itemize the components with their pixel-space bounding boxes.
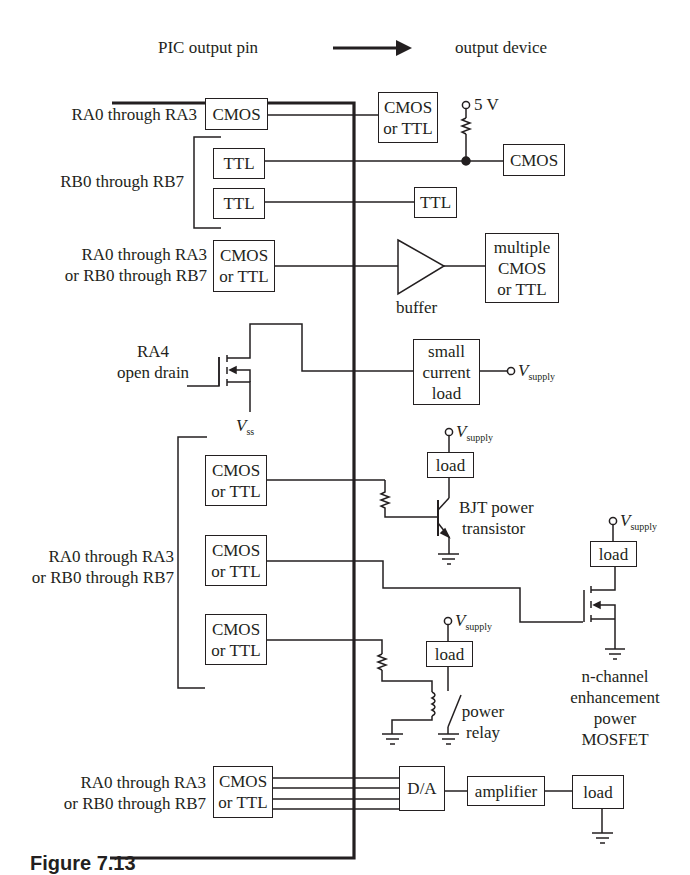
box-line: CMOS (212, 619, 260, 640)
label-line: or RB0 through RB7 (32, 567, 174, 588)
vsupply-label-bjt: Vsupply (456, 421, 493, 448)
box-line: multiple (494, 237, 551, 258)
vsupply-symbol: V (455, 611, 465, 630)
amplifier-box: amplifier (467, 776, 545, 806)
vsupply-symbol: V (620, 511, 630, 530)
relay-load-box: load (426, 641, 473, 667)
box-line: or TTL (219, 266, 268, 287)
label-line: MOSFET (560, 729, 670, 750)
label-line: enhancement (560, 687, 670, 708)
vsupply-symbol: V (456, 422, 466, 441)
ttl-driver-label: TTL (223, 153, 254, 174)
vss-label: Vss (236, 415, 254, 442)
box-line: small (428, 341, 465, 362)
output-device-label: output device (455, 37, 547, 58)
box-line: load (583, 782, 612, 803)
cmos-output-box: CMOS (503, 144, 565, 176)
label-line: or RB0 through RB7 (64, 793, 206, 814)
pullup-voltage-label: 5 V (474, 94, 499, 115)
vsupply-label-mosfet: Vsupply (620, 510, 657, 537)
ra4-open-drain-label: RA4 open drain (113, 341, 193, 383)
box-line: load (599, 544, 628, 565)
label-line: BJT power (459, 497, 534, 518)
vsupply-subscript: supply (465, 621, 492, 632)
label-line: power (458, 701, 508, 722)
pin-label-dac-row: RA0 through RA3 or RB0 through RB7 (64, 772, 206, 814)
ttl-driver-box-2: TTL (213, 188, 265, 219)
label-line: power (560, 708, 670, 729)
pin-label-rb0-rb7: RB0 through RB7 (60, 171, 184, 192)
box-line: or TTL (383, 118, 432, 139)
dac-load-box: load (572, 775, 624, 809)
box-line: CMOS (220, 245, 268, 266)
buffer-label: buffer (396, 297, 437, 318)
figure-caption: Figure 7.13 (30, 852, 136, 875)
label-line: RA0 through RA3 (65, 244, 207, 265)
bjt-load-box: load (427, 452, 474, 478)
box-line: load (436, 455, 465, 476)
box-line: CMOS (498, 258, 546, 279)
dac-box: D/A (399, 766, 445, 811)
open-drain-mosfet (187, 324, 354, 412)
multiple-cmos-ttl-box: multiple CMOS or TTL (485, 233, 559, 303)
mosfet-load-box: load (590, 541, 637, 567)
bjt-label: BJT power transistor (459, 497, 534, 539)
pin-label-ra0-ra3: RA0 through RA3 (71, 104, 197, 125)
pin-label-power-drivers: RA0 through RA3 or RB0 through RB7 (32, 546, 174, 588)
box-line: current (422, 362, 470, 383)
pin-label-buffer-row: RA0 through RA3 or RB0 through RB7 (65, 244, 207, 286)
box-line: load (435, 644, 464, 665)
box-line: or TTL (497, 279, 546, 300)
label-line: or RB0 through RB7 (65, 265, 207, 286)
bjt-driver-box: CMOS or TTL (205, 455, 267, 506)
label-line: RA0 through RA3 (32, 546, 174, 567)
box-line: or TTL (218, 792, 267, 813)
mosfet-driver-box: CMOS or TTL (205, 535, 267, 586)
relay-driver-box: CMOS or TTL (205, 614, 267, 665)
label-line: RA0 through RA3 (64, 772, 206, 793)
box-line: CMOS (212, 460, 260, 481)
box-line: or TTL (211, 561, 260, 582)
box-line: or TTL (211, 481, 260, 502)
box-line: CMOS (510, 150, 558, 171)
box-line: load (432, 383, 461, 404)
label-line: RA4 (113, 341, 193, 362)
vss-symbol: V (236, 416, 246, 435)
ttl-driver-label: TTL (223, 193, 254, 214)
vsupply-label-relay: Vsupply (455, 610, 492, 637)
label-line: n-channel (560, 666, 670, 687)
vsupply-subscript: supply (466, 432, 493, 443)
label-line: relay (458, 722, 508, 743)
cmos-or-ttl-driver-box: CMOS or TTL (213, 240, 275, 292)
box-line: amplifier (475, 781, 537, 802)
box-line: or TTL (211, 640, 260, 661)
cmos-or-ttl-output-box: CMOS or TTL (378, 92, 438, 143)
box-line: D/A (407, 778, 436, 799)
box-line: CMOS (219, 771, 267, 792)
label-line: open drain (113, 362, 193, 383)
box-line: CMOS (212, 540, 260, 561)
box-line: CMOS (384, 97, 432, 118)
ttl-output-box: TTL (414, 187, 457, 218)
label-line: transistor (459, 518, 534, 539)
vss-subscript: ss (246, 426, 254, 437)
small-current-load-box: small current load (413, 339, 480, 405)
ttl-driver-box-1: TTL (213, 148, 265, 179)
vsupply-label-open-drain: Vsupply (518, 360, 555, 387)
box-line: TTL (420, 192, 451, 213)
vsupply-subscript: supply (528, 371, 555, 382)
cmos-driver-label: CMOS (212, 104, 260, 125)
vsupply-subscript: supply (630, 521, 657, 532)
dac-driver-box: CMOS or TTL (213, 766, 273, 818)
relay-label: power relay (458, 701, 508, 743)
mosfet-label: n-channel enhancement power MOSFET (560, 666, 670, 750)
vsupply-symbol: V (518, 361, 528, 380)
pic-output-pin-label: PIC output pin (158, 37, 258, 58)
cmos-driver-box: CMOS (205, 98, 268, 130)
right-arrow-icon (333, 40, 412, 56)
